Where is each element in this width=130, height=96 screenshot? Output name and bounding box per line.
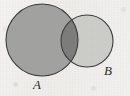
- set-a-label: A: [33, 78, 41, 91]
- venn-diagram-figure: A B: [0, 0, 130, 96]
- set-b-label: B: [104, 64, 112, 77]
- venn-diagram-canvas: [0, 0, 130, 96]
